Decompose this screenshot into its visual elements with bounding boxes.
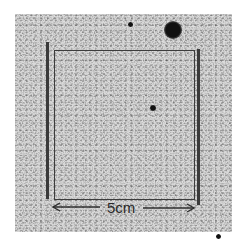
scale-label: 5cm xyxy=(107,200,135,215)
